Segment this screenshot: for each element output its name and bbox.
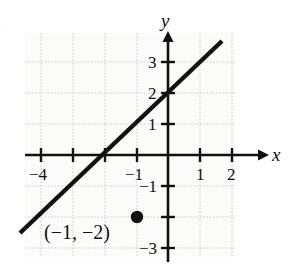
point-coordinate-annotation: (−1, −2) <box>44 222 110 242</box>
y-tick-label-1: 1 <box>148 116 157 133</box>
y-tick-label-3: 3 <box>148 54 157 71</box>
graph-figure: · <box>0 0 290 274</box>
x-axis-label: x <box>272 145 280 164</box>
y-tick-label-neg3: −3 <box>139 240 157 257</box>
x-tick-label-neg4: −4 <box>29 166 47 183</box>
y-axis-label: y <box>161 11 169 30</box>
plotted-point-marker <box>131 211 143 223</box>
x-tick-label-1: 1 <box>196 166 205 183</box>
x-tick-label-2: 2 <box>227 166 236 183</box>
y-tick-label-neg1: −1 <box>139 178 157 195</box>
y-tick-label-2: 2 <box>148 85 157 102</box>
